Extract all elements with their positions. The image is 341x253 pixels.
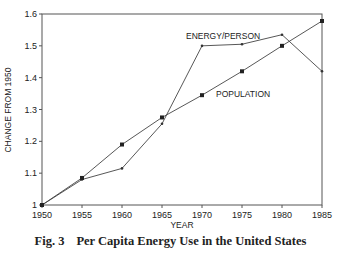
x-tick-label: 1960 bbox=[112, 210, 132, 220]
population-marker bbox=[120, 143, 124, 147]
energy-series-label: ENERGY/PERSON bbox=[186, 31, 260, 41]
y-tick-label: 1.4 bbox=[24, 73, 37, 83]
population-marker bbox=[160, 115, 164, 119]
x-tick-label: 1975 bbox=[232, 210, 252, 220]
x-tick-label: 1970 bbox=[192, 210, 212, 220]
y-tick-label: 1.1 bbox=[24, 168, 37, 178]
energy-marker bbox=[281, 33, 284, 36]
x-tick-label: 1980 bbox=[272, 210, 292, 220]
energy-marker bbox=[121, 167, 124, 170]
energy-marker bbox=[201, 45, 204, 48]
y-tick-label: 1.2 bbox=[24, 136, 37, 146]
x-tick-label: 1985 bbox=[312, 210, 332, 220]
y-tick-label: 1.6 bbox=[24, 9, 37, 19]
y-tick-label: 1.5 bbox=[24, 41, 37, 51]
population-marker bbox=[80, 176, 84, 180]
series-lines bbox=[40, 19, 324, 207]
population-marker bbox=[320, 19, 324, 23]
population-marker bbox=[240, 69, 244, 73]
x-axis-title: YEAR bbox=[170, 220, 193, 230]
population-marker bbox=[40, 203, 44, 207]
x-tick-label: 1965 bbox=[152, 210, 172, 220]
figure-caption: Fig. 3Per Capita Energy Use in the Unite… bbox=[0, 234, 341, 249]
x-tick-label: 1955 bbox=[72, 210, 92, 220]
y-tick-label: 1 bbox=[32, 200, 37, 210]
energy-marker bbox=[241, 43, 244, 46]
population-marker bbox=[200, 93, 204, 97]
population-marker bbox=[280, 44, 284, 48]
figure-number: Fig. 3 bbox=[35, 234, 65, 248]
x-axis-ticks: 19501955196019651970197519801985 bbox=[32, 205, 332, 220]
y-tick-label: 1.3 bbox=[24, 105, 37, 115]
x-tick-label: 1950 bbox=[32, 210, 52, 220]
figure-title: Per Capita Energy Use in the United Stat… bbox=[76, 234, 306, 248]
energy-marker bbox=[161, 123, 164, 126]
energy-marker bbox=[321, 70, 324, 73]
y-axis-ticks: 11.11.21.31.41.51.6 bbox=[24, 9, 42, 210]
population-series-label: POPULATION bbox=[216, 89, 270, 99]
y-axis-title: CHANGE FROM 1950 bbox=[3, 67, 13, 152]
line-chart: 11.11.21.31.41.51.6 19501955196019651970… bbox=[0, 0, 341, 253]
